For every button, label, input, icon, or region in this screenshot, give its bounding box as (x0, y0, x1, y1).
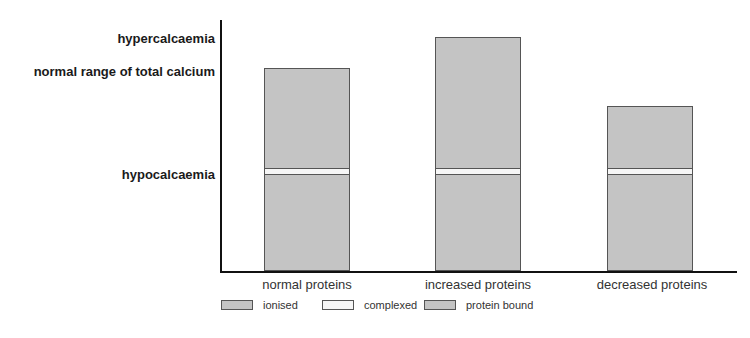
y-label-normal-range: normal range of total calcium (34, 64, 215, 80)
y-label-hypercalcaemia: hypercalcaemia (117, 31, 215, 47)
legend-swatch-ionised (221, 300, 253, 310)
legend-item-ionised: ionised (221, 299, 298, 311)
bar-segment-protein-bound (264, 174, 350, 271)
legend-item-complexed: complexed (322, 299, 417, 311)
bar-increased-proteins (435, 37, 521, 271)
bar-normal-proteins (264, 68, 350, 271)
y-axis (220, 20, 222, 273)
y-label-hypocalcaemia: hypocalcaemia (122, 167, 215, 183)
bar-segment-protein-bound (607, 174, 693, 271)
x-label-increased-proteins: increased proteins (425, 277, 531, 292)
x-label-normal-proteins: normal proteins (262, 277, 352, 292)
legend-swatch-complexed (322, 300, 354, 310)
x-label-decreased-proteins: decreased proteins (597, 277, 708, 292)
bar-decreased-proteins (607, 106, 693, 271)
bar-segment-ionised (607, 106, 693, 169)
legend-item-protein-bound: protein bound (424, 299, 533, 311)
legend-label: ionised (263, 299, 298, 311)
bar-segment-ionised (264, 68, 350, 169)
x-axis (220, 271, 737, 273)
bar-segment-protein-bound (435, 174, 521, 271)
bar-segment-ionised (435, 37, 521, 169)
legend-label: protein bound (466, 299, 533, 311)
legend-swatch-protein-bound (424, 300, 456, 310)
legend-label: complexed (364, 299, 417, 311)
